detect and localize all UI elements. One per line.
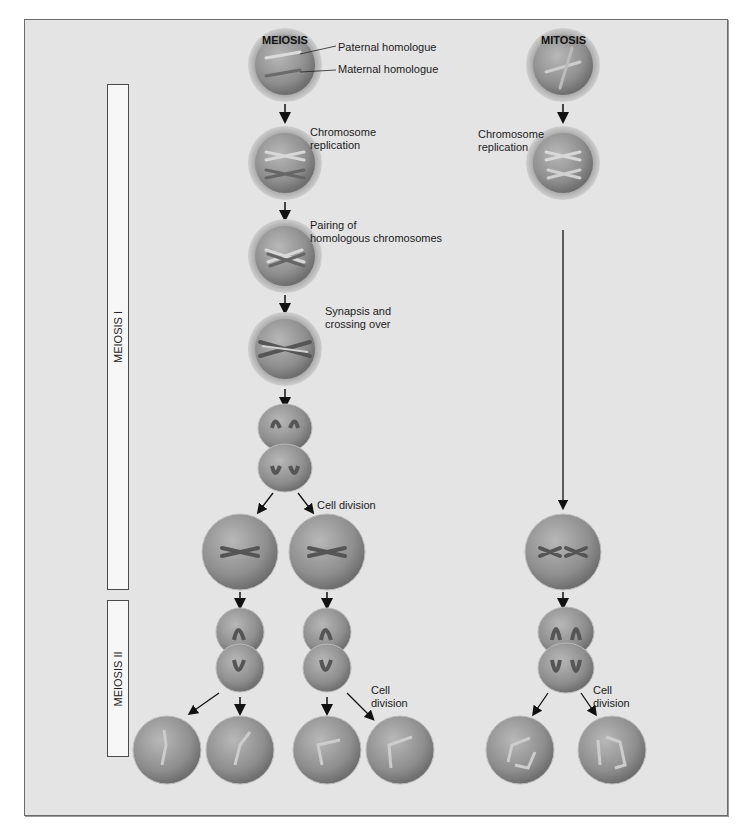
- cell-anaphase-1: [258, 404, 312, 492]
- label-chromosome-replication: Chromosome replication: [310, 126, 376, 152]
- header-mitosis: MITOSIS: [541, 34, 586, 46]
- label-chromosome-replication-mitosis: Chromosome replication: [478, 128, 544, 154]
- phase-label-meiosis-2: MEIOSIS II: [112, 651, 124, 706]
- header-meiosis: MEIOSIS: [262, 34, 308, 46]
- label-cell-division-mitosis: Cell division: [593, 684, 630, 710]
- cell-mitosis-anaphase: [538, 607, 594, 693]
- label-maternal-homologue: Maternal homologue: [338, 63, 438, 76]
- label-paternal-homologue: Paternal homologue: [338, 41, 436, 54]
- cell-anaphase-2-right: [303, 608, 351, 692]
- arrow: [298, 493, 311, 510]
- arrow: [347, 693, 371, 717]
- cell-mitosis-metaphase: [525, 514, 601, 590]
- phase-label-meiosis-1: MEIOSIS I: [112, 311, 124, 363]
- label-pairing: Pairing of homologous chromosomes: [310, 219, 442, 245]
- label-cell-division-1: Cell division: [317, 499, 376, 512]
- label-cell-division-2: Cell division: [371, 684, 408, 710]
- arrow: [260, 493, 273, 510]
- cell-daughter-right: [289, 514, 365, 590]
- cell-daughter-left: [202, 514, 278, 590]
- arrow: [535, 693, 548, 712]
- cell-anaphase-2-left: [216, 608, 264, 692]
- label-synapsis: Synapsis and crossing over: [325, 305, 391, 331]
- cell-synapsis: [248, 312, 322, 386]
- mitosis-daughter-cells: [486, 716, 646, 784]
- phase-box-meiosis-2: MEIOSIS II: [107, 600, 129, 757]
- phase-box-meiosis-1: MEIOSIS I: [107, 84, 129, 590]
- gamete-cells: [133, 716, 434, 784]
- arrow: [192, 693, 219, 712]
